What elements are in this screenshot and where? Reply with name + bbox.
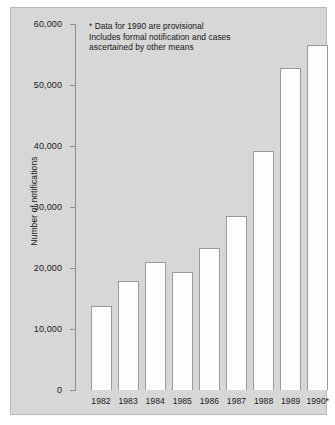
bar-1983 (118, 281, 139, 390)
y-axis-line (75, 24, 76, 390)
y-axis-tick-label: 20,000 (34, 263, 62, 273)
chart-figure: Number of notifications 010,00020,00030,… (10, 7, 327, 415)
x-axis-label-1983: 1983 (113, 396, 143, 406)
y-axis-tick: 50,000 (70, 85, 75, 86)
y-axis-tick-label: 0 (57, 385, 62, 395)
bar-1989 (280, 68, 301, 390)
bar-1990 (307, 45, 328, 390)
y-axis-tick: 60,000 (70, 24, 75, 25)
y-axis-tick-label: 30,000 (34, 202, 62, 212)
x-axis-label-1990: 1990* (303, 396, 333, 406)
bar-1988 (253, 151, 274, 390)
annotation-line: * Data for 1990 are provisional (89, 21, 231, 32)
x-axis-label-1988: 1988 (249, 396, 279, 406)
y-axis-tick-label: 60,000 (34, 19, 62, 29)
y-axis-tick-label: 10,000 (34, 324, 62, 334)
chart-annotation: * Data for 1990 are provisionalIncludes … (89, 21, 231, 53)
annotation-line: ascertained by other means (89, 42, 231, 53)
x-axis-label-1982: 1982 (86, 396, 116, 406)
x-axis-line (75, 390, 76, 391)
y-axis-tick: 30,000 (70, 207, 75, 208)
annotation-line: Includes formal notification and cases (89, 32, 231, 43)
bar-1987 (226, 216, 247, 390)
y-axis-tick-label: 40,000 (34, 141, 62, 151)
x-axis-label-1985: 1985 (167, 396, 197, 406)
bar-1982 (91, 306, 112, 390)
x-axis-label-1987: 1987 (222, 396, 252, 406)
plot-area: 010,00020,00030,00040,00050,00060,000 * … (75, 24, 323, 390)
bar-1984 (145, 262, 166, 390)
y-axis-tick: 20,000 (70, 268, 75, 269)
bar-1985 (172, 272, 193, 390)
y-axis-tick: 10,000 (70, 329, 75, 330)
y-axis-tick: 0 (70, 390, 75, 391)
y-axis-tick: 40,000 (70, 146, 75, 147)
x-axis-label-1984: 1984 (140, 396, 170, 406)
x-axis-label-1986: 1986 (194, 396, 224, 406)
bar-1986 (199, 248, 220, 390)
y-axis-tick-label: 50,000 (34, 80, 62, 90)
x-axis-label-1989: 1989 (276, 396, 306, 406)
